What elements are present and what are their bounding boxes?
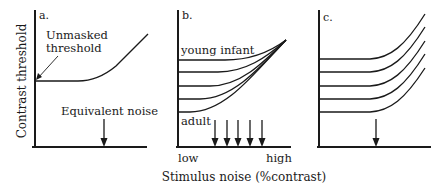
panel-b-label: b. [182,10,193,22]
y-axis-label: Contrast threshold [15,21,29,141]
panel-c-curve-2 [320,27,425,72]
unmasked-threshold-arrow-icon [38,56,58,78]
unmasked-threshold-label-line2: threshold [46,42,102,54]
x-axis-low-label: low [178,152,198,164]
adult-label: adult [181,115,211,127]
young-infant-label: young infant [181,44,254,56]
panel-c-curve-3 [320,41,425,86]
panel-c-curve-1 [320,14,425,59]
panel-b-noise-arrows [212,120,266,147]
unmasked-threshold-label-line1: Unmasked [46,29,108,41]
x-axis-label: Stimulus noise (%contrast) [159,170,329,184]
panel-c-label: c. [323,12,333,24]
equivalent-noise-label: Equivalent noise [61,105,158,117]
panel-c [317,10,431,148]
panel-a-label: a. [39,10,49,22]
x-axis-high-label: high [266,152,292,164]
panel-c-curve-5 [320,68,425,112]
panel-c-curve-4 [320,54,425,99]
